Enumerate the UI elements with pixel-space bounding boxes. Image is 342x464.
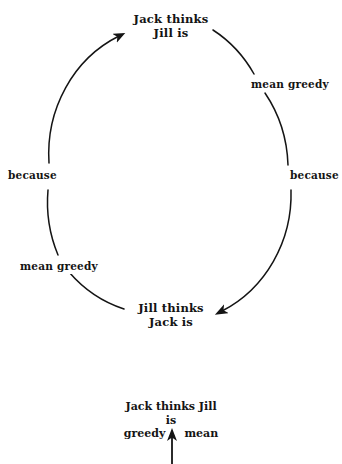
- arc-lower-left-to-left: [47, 190, 58, 255]
- node-bottom-line1: Jill thinks: [138, 301, 204, 315]
- arc-left-to-top: [49, 36, 119, 163]
- caption-block: Jack thinks Jill is greedy mean: [124, 400, 218, 441]
- arc-right-to-bottom: [222, 190, 291, 311]
- node-jack-thinks-jill-is: Jack thinks Jill is: [131, 11, 212, 41]
- arc-top-to-upper-right: [213, 30, 254, 74]
- edge-label-left-because: because: [6, 168, 59, 183]
- caption-line-3: greedy mean: [124, 427, 218, 441]
- circular-loop-arcs: [0, 0, 342, 464]
- arc-upper-right-to-right: [265, 93, 288, 165]
- edge-label-right-because: because: [288, 168, 341, 183]
- diagram-canvas: Jack thinks Jill is Jill thinks Jack is …: [0, 0, 342, 464]
- caption-word-mean: mean: [184, 427, 218, 441]
- caption-line-2: is: [124, 414, 218, 428]
- edge-label-upper-right-mean-greedy: mean greedy: [249, 77, 331, 92]
- caption-line-1: Jack thinks Jill: [124, 400, 218, 414]
- edge-label-lower-left-mean-greedy: mean greedy: [18, 259, 100, 274]
- node-top-line1: Jack thinks: [134, 12, 209, 26]
- arc-bottom-to-lower-left: [69, 272, 124, 309]
- caption-word-greedy: greedy: [124, 427, 166, 441]
- node-top-line2: Jill is: [134, 26, 209, 40]
- node-bottom-line2: Jack is: [138, 315, 204, 329]
- node-jill-thinks-jack-is: Jill thinks Jack is: [135, 300, 207, 330]
